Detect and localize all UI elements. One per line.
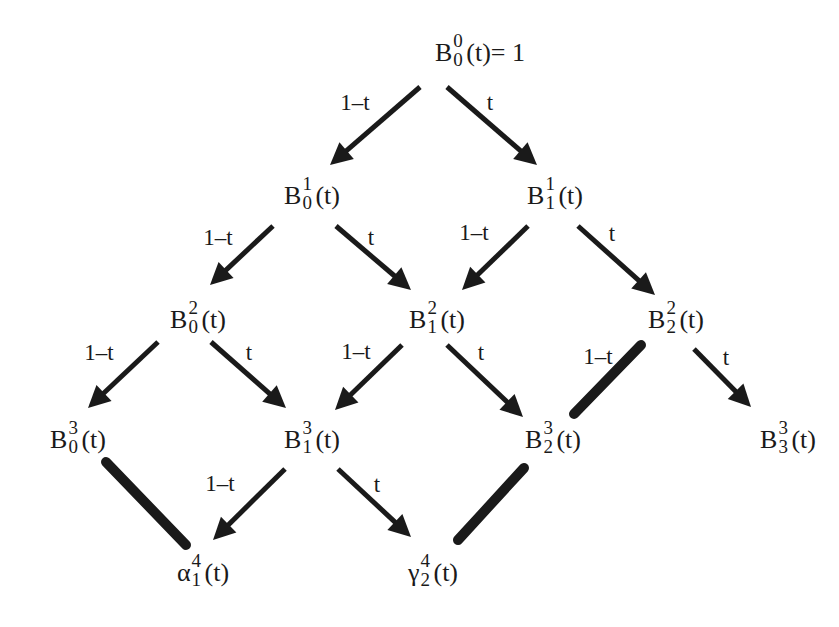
- edge-label: t: [487, 91, 493, 114]
- node-B02: B20(t): [170, 306, 226, 338]
- node-argument: (t): [315, 425, 340, 454]
- edge-arrow-B00-B11: [447, 87, 522, 152]
- edge-label: t: [368, 226, 374, 249]
- node-scripts: 30: [68, 418, 81, 458]
- node-B00: B00(t)= 1: [435, 39, 525, 71]
- edge-label: t: [246, 341, 252, 364]
- node-argument: (t): [81, 425, 106, 454]
- node-gamma: γ42(t): [408, 559, 458, 591]
- node-base: B: [648, 305, 665, 334]
- node-subscript: 3: [778, 437, 788, 456]
- node-scripts: 31: [302, 418, 315, 458]
- edge-label: 1–t: [340, 91, 369, 114]
- node-argument: (t): [558, 181, 583, 210]
- edge-arrow-B02-B13: [211, 342, 271, 395]
- edge-thick-B23-gamma: [458, 468, 524, 540]
- node-superscript: 2: [188, 298, 198, 317]
- node-superscript: 0: [453, 31, 463, 50]
- edge-label: 1–t: [341, 340, 370, 363]
- node-scripts: 20: [188, 298, 201, 338]
- node-subscript: 2: [666, 317, 676, 336]
- edge-thick-B03-alpha: [106, 462, 186, 545]
- node-base: B: [284, 425, 301, 454]
- node-subscript: 1: [302, 437, 312, 456]
- node-B11: B11(t): [527, 182, 583, 214]
- node-subscript: 1: [192, 570, 202, 589]
- node-base: B: [435, 38, 452, 67]
- node-scripts: 21: [427, 298, 440, 338]
- edge-label: t: [374, 473, 380, 496]
- node-B01: B10(t): [284, 182, 340, 214]
- node-subscript: 1: [427, 317, 437, 336]
- node-superscript: 2: [666, 298, 676, 317]
- edge-label: t: [609, 222, 615, 245]
- node-scripts: 42: [420, 551, 433, 591]
- node-superscript: 3: [68, 418, 78, 437]
- node-base: B: [170, 305, 187, 334]
- node-base: B: [525, 425, 542, 454]
- node-superscript: 4: [420, 551, 430, 570]
- node-argument: (t): [201, 305, 226, 334]
- edge-label: t: [723, 346, 729, 369]
- node-superscript: 3: [302, 418, 312, 437]
- node-argument: (t): [679, 305, 704, 334]
- node-base: B: [409, 305, 426, 334]
- edge-arrow-B22-B33: [694, 349, 737, 393]
- node-B33: B33(t): [760, 426, 816, 458]
- node-superscript: 3: [543, 418, 553, 437]
- edge-arrow-B13-alpha: [227, 469, 285, 526]
- node-scripts: 22: [666, 298, 679, 338]
- node-B23: B32(t): [525, 426, 581, 458]
- node-argument: (t): [433, 558, 458, 587]
- node-subscript: 0: [68, 437, 78, 456]
- node-base: B: [284, 181, 301, 210]
- node-subscript: 1: [545, 193, 555, 212]
- edge-arrow-B01-B12: [336, 226, 396, 277]
- node-subscript: 0: [302, 193, 312, 212]
- node-B22: B22(t): [648, 306, 704, 338]
- node-argument: (t): [205, 558, 230, 587]
- node-argument: (t): [556, 425, 581, 454]
- node-superscript: 1: [545, 174, 555, 193]
- edge-label: 1–t: [459, 221, 488, 244]
- edge-arrow-B13-gamma: [338, 469, 396, 523]
- node-argument: (t): [466, 38, 491, 67]
- node-subscript: 2: [420, 570, 430, 589]
- node-B12: B21(t): [409, 306, 465, 338]
- node-superscript: 3: [778, 418, 788, 437]
- node-superscript: 1: [302, 174, 312, 193]
- node-scripts: 10: [302, 174, 315, 214]
- node-scripts: 41: [192, 551, 205, 591]
- node-base: B: [50, 425, 67, 454]
- node-alpha: α41(t): [177, 559, 229, 591]
- node-superscript: 2: [427, 298, 437, 317]
- node-base: α: [177, 558, 191, 587]
- edge-label: 1–t: [205, 472, 234, 495]
- node-argument: (t): [440, 305, 465, 334]
- edge-label: t: [478, 341, 484, 364]
- edge-label: 1–t: [583, 345, 612, 368]
- node-scripts: 32: [543, 418, 556, 458]
- node-B13: B31(t): [284, 426, 340, 458]
- node-superscript: 4: [192, 551, 202, 570]
- node-subscript: 0: [188, 317, 198, 336]
- node-subscript: 2: [543, 437, 553, 456]
- node-base: B: [760, 425, 777, 454]
- node-suffix: = 1: [491, 38, 525, 67]
- node-base: B: [527, 181, 544, 210]
- edge-label: 1–t: [203, 226, 232, 249]
- node-scripts: 00: [453, 31, 466, 71]
- node-scripts: 33: [778, 418, 791, 458]
- node-scripts: 11: [545, 174, 558, 214]
- edge-label: 1–t: [84, 341, 113, 364]
- node-argument: (t): [791, 425, 816, 454]
- node-base: γ: [408, 558, 420, 587]
- node-B03: B30(t): [50, 426, 106, 458]
- node-subscript: 0: [453, 50, 463, 69]
- node-argument: (t): [315, 181, 340, 210]
